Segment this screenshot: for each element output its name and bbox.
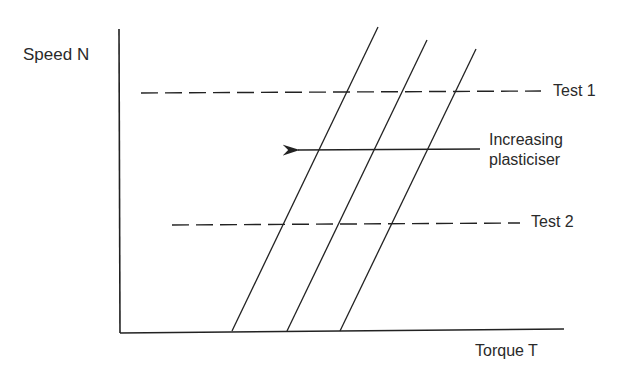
curve-1 [232,27,378,331]
annotation-line-2: plasticiser [489,151,560,169]
y-axis [119,29,120,333]
y-axis-label: Speed N [23,46,89,64]
test-1-line [141,91,541,93]
plasticiser-arrow [298,149,480,150]
annotation-line-1: Increasing [489,131,563,149]
test-2-line [172,223,520,225]
x-axis [120,329,564,333]
curve-2 [287,40,427,331]
test-1-label: Test 1 [553,82,596,100]
diagram-canvas [0,0,632,379]
x-axis-label: Torque T [475,342,538,360]
test-2-label: Test 2 [531,213,574,231]
